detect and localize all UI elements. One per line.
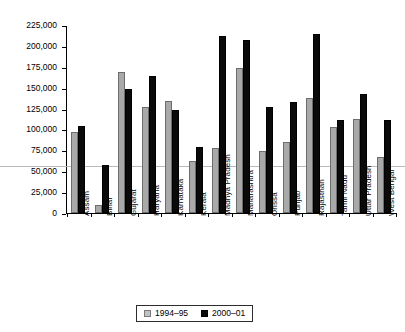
y-axis-tick-mark xyxy=(62,172,66,173)
bar-series-1 xyxy=(165,101,172,213)
y-axis-tick-label: 175,000 xyxy=(26,62,57,72)
bar-series-1 xyxy=(353,119,360,213)
bar-series-1 xyxy=(330,127,337,213)
y-axis-tick-label: 25,000 xyxy=(31,187,57,197)
bar-series-1 xyxy=(377,157,384,213)
legend-label-series-1: 1994–95 xyxy=(155,308,188,318)
bar-series-1 xyxy=(95,205,102,213)
legend-item-series-1: 1994–95 xyxy=(144,308,188,318)
bar-series-1 xyxy=(259,151,266,213)
x-axis-category-label: Rajasthan xyxy=(317,179,326,216)
x-axis-category-labels: AssamBiharGujaratHaryanaKarnatakaKeralaM… xyxy=(67,216,396,296)
x-axis-category-label: Maharashtra xyxy=(246,170,255,216)
y-axis-tick-label: 100,000 xyxy=(26,124,57,134)
legend-swatch-icon-series-2 xyxy=(201,310,208,317)
y-axis-tick-label: 150,000 xyxy=(26,83,57,93)
y-axis-tick-mark xyxy=(62,47,66,48)
x-axis-category-label: Uttar Pradesh xyxy=(364,165,373,216)
y-axis-tick-label: 75,000 xyxy=(31,145,57,155)
x-axis-category-label: Orissa xyxy=(270,192,279,216)
y-axis-tick-label: 125,000 xyxy=(26,104,57,114)
bar-series-1 xyxy=(71,132,78,213)
y-axis-tick-mark xyxy=(62,193,66,194)
legend-label-series-2: 2000–01 xyxy=(212,308,245,318)
y-axis-tick-mark xyxy=(62,89,66,90)
y-axis-tick-mark xyxy=(62,151,66,152)
legend-item-series-2: 2000–01 xyxy=(201,308,245,318)
y-axis-tick-mark xyxy=(62,130,66,131)
bar-series-1 xyxy=(236,68,243,213)
legend: 1994–95 2000–01 xyxy=(136,305,253,322)
x-axis-category-label: West Bengal xyxy=(387,170,396,216)
bar-group xyxy=(279,26,303,213)
x-axis-category-label: Bihar xyxy=(105,197,114,216)
x-axis-category-label: Madhya Pradesh xyxy=(223,154,232,216)
y-axis-tick-mark xyxy=(62,214,66,215)
bar-group xyxy=(67,26,91,213)
x-axis-category-label: Haryana xyxy=(152,185,161,216)
legend-swatch-icon-series-1 xyxy=(144,310,151,317)
bar-series-1 xyxy=(306,98,313,213)
bar-group xyxy=(185,26,209,213)
bar-chart: Rupees/employee 025,00050,00075,000100,0… xyxy=(0,0,405,332)
x-axis-category-label: Assam xyxy=(82,191,91,216)
bar-series-1 xyxy=(283,142,290,213)
x-axis-category-label: Kerala xyxy=(199,192,208,216)
y-axis-tick-label: 50,000 xyxy=(31,166,57,176)
bar-series-1 xyxy=(142,107,149,213)
bar-series-1 xyxy=(118,72,125,213)
bar-series-1 xyxy=(189,161,196,213)
bar-group-end xyxy=(396,26,397,213)
y-axis-tick-mark xyxy=(62,68,66,69)
y-axis-tick-label: 225,000 xyxy=(26,20,57,30)
bar-group xyxy=(91,26,115,213)
bar-group xyxy=(114,26,138,213)
x-axis-category-label: Karnataka xyxy=(176,179,185,216)
x-axis-tick-mark xyxy=(396,213,397,217)
x-axis-category-label: Punjab xyxy=(293,190,302,216)
bar-series-1 xyxy=(212,148,219,213)
x-axis-category-label: Gujarat xyxy=(129,189,138,216)
x-axis-category-label: Tamil Nadu xyxy=(340,175,349,216)
y-axis-tick-label: 200,000 xyxy=(26,41,57,51)
y-axis-tick-label: 0 xyxy=(52,208,57,218)
bar-group xyxy=(255,26,279,213)
y-axis-tick-mark xyxy=(62,110,66,111)
y-axis-tick-mark xyxy=(62,26,66,27)
